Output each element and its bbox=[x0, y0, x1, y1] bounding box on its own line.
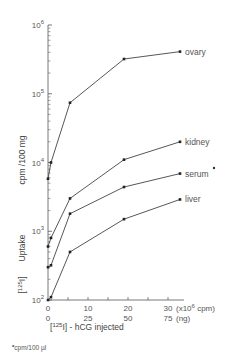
y-axis-isotope: [125I] bbox=[17, 276, 27, 293]
kidney-point bbox=[179, 141, 182, 144]
liver-point bbox=[50, 296, 53, 299]
x-tick-label-cpm: 10 bbox=[84, 304, 93, 313]
y-axis-uptake-label: Uptake bbox=[17, 234, 27, 261]
y-tick-label: 105 bbox=[32, 88, 45, 99]
serum-point bbox=[69, 212, 72, 215]
y-axis-isotope-label: [125I] bbox=[17, 276, 27, 293]
ovary-point bbox=[179, 50, 182, 53]
serum-line bbox=[48, 174, 180, 268]
kidney-label: kidney bbox=[185, 137, 210, 147]
y-tick-label: 106 bbox=[32, 19, 45, 30]
serum-label: serum bbox=[185, 169, 209, 179]
x-unit-ng: (ng) bbox=[176, 314, 191, 323]
y-tick-label: 103 bbox=[32, 225, 45, 236]
ovary-label: ovary bbox=[185, 47, 207, 57]
ovary-point bbox=[47, 177, 50, 180]
liver-point bbox=[69, 251, 72, 254]
serum-footnote-mark bbox=[213, 167, 215, 169]
y-tick-label: 102 bbox=[32, 294, 45, 305]
kidney-point bbox=[50, 237, 53, 240]
ovary-point bbox=[69, 101, 72, 104]
kidney-point bbox=[123, 158, 126, 161]
serum-point bbox=[50, 264, 53, 267]
serum-point bbox=[179, 172, 182, 175]
serum-point bbox=[123, 186, 126, 189]
kidney-line bbox=[48, 142, 180, 247]
axes bbox=[48, 25, 184, 300]
x-tick-label-ng: 75 bbox=[164, 314, 173, 323]
x-tick-label-cpm: 20 bbox=[124, 304, 133, 313]
x-unit-cpm: (x106 cpm) bbox=[176, 303, 215, 313]
kidney-point bbox=[47, 245, 50, 248]
liver-point bbox=[179, 198, 182, 201]
ovary-point bbox=[123, 58, 126, 61]
y-axis-units: cpm /100 mg bbox=[17, 135, 27, 184]
kidney-point bbox=[69, 197, 72, 200]
ovary-point bbox=[50, 161, 53, 164]
ovary-line bbox=[48, 52, 180, 179]
y-axis-title: cpm /100 mg bbox=[17, 135, 27, 184]
liver-line bbox=[48, 199, 180, 300]
liver-label: liver bbox=[185, 194, 201, 204]
x-axis-title-rest: - hCG injected bbox=[70, 322, 125, 332]
y-tick-label: 104 bbox=[32, 157, 45, 168]
y-axis-uptake: Uptake bbox=[17, 234, 27, 261]
x-tick-label-cpm: 0 bbox=[46, 304, 51, 313]
uptake-chart: 10210310410510601020300255075(x106 cpm)(… bbox=[0, 0, 232, 359]
serum-point bbox=[47, 266, 50, 269]
data-lines: ovarykidneyserumliver bbox=[47, 47, 211, 302]
liver-point bbox=[123, 218, 126, 221]
x-tick-label-cpm: 30 bbox=[164, 304, 173, 313]
liver-point bbox=[47, 299, 50, 302]
x-axis-title: [125I] - hCG injected bbox=[50, 322, 124, 332]
footnote: •cpm/100 µl bbox=[12, 342, 47, 352]
x-tick-label-ng: 50 bbox=[124, 314, 133, 323]
